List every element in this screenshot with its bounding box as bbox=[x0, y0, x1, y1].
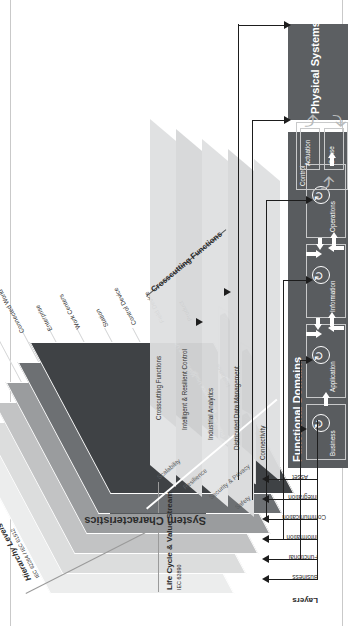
syschar-axis-line bbox=[110, 513, 206, 514]
flow-arrow-up-info-app bbox=[334, 326, 344, 330]
mapping-line-functional-v bbox=[268, 559, 318, 560]
mapping-line-asset-v bbox=[268, 479, 318, 480]
mapping-drop-operations bbox=[266, 200, 308, 201]
crosscutting-arrowhead-1 bbox=[196, 318, 203, 326]
flow-arrow-up-ops-info bbox=[334, 246, 344, 250]
physical-systems-title: Physical Systems bbox=[310, 21, 321, 114]
mapping-drop-information bbox=[283, 280, 308, 281]
application-domain-label: Application bbox=[330, 361, 336, 392]
crosscutting-band-3 bbox=[202, 139, 228, 461]
mapping-arrowhead-physical bbox=[284, 21, 291, 29]
actuation-to-physical-arrow: ⤷ bbox=[296, 113, 322, 128]
mapping-arrowhead-application bbox=[306, 356, 313, 364]
crosscutting-arrowhead-2 bbox=[224, 288, 231, 296]
system-characteristics-title: System Characteristics bbox=[84, 515, 206, 526]
mapping-drop-physical bbox=[238, 25, 288, 26]
flow-arrow-down-app-info bbox=[306, 332, 316, 336]
business-domain-box bbox=[306, 404, 346, 460]
mapping-run-information bbox=[283, 280, 284, 540]
mapping-arrow-business bbox=[262, 575, 269, 583]
actuation-label: Actuation bbox=[305, 140, 311, 166]
flow-arrow-down-info-ops bbox=[306, 252, 316, 256]
mapping-run-functional bbox=[300, 360, 301, 560]
mapping-run-business bbox=[317, 420, 318, 580]
rotated-figure: Hierarchy Levels IEC 62264 / IEC 61512 L… bbox=[0, 0, 352, 626]
flow-arrow-information-application bbox=[318, 238, 322, 244]
application-domain-cycle-icon bbox=[312, 346, 330, 364]
mapping-arrowhead-control bbox=[284, 116, 291, 124]
control-internal-arrow: ⤷ bbox=[312, 175, 338, 190]
mapping-arrowhead-business bbox=[300, 425, 307, 433]
information-domain-label: Information bbox=[330, 281, 336, 313]
crosscutting-label-industrial-analytics: Industrial Analytics bbox=[208, 388, 214, 440]
business-domain-label: Business bbox=[330, 430, 336, 456]
mapping-line-business-v bbox=[268, 579, 318, 580]
mapping-arrow-functional bbox=[262, 555, 269, 563]
information-domain-cycle-icon bbox=[312, 266, 330, 284]
mapping-arrowhead-operations bbox=[306, 196, 313, 204]
iira-block: Crosscutting Functions Intelligent & Res… bbox=[0, 0, 352, 626]
mapping-line-integration-v bbox=[268, 499, 318, 500]
mapping-drop-control bbox=[252, 120, 288, 121]
mapping-arrow-information bbox=[262, 535, 269, 543]
operations-domain-label: Operations bbox=[330, 201, 336, 232]
physical-to-sense-arrow: ⤶ bbox=[324, 113, 350, 128]
mapping-run-integration bbox=[252, 120, 253, 500]
crosscutting-label-crosscutting-functions: Crosscutting Functions bbox=[156, 356, 162, 420]
mapping-line-communication-v bbox=[268, 519, 318, 520]
figure-canvas: Hierarchy Levels IEC 62264 / IEC 61512 L… bbox=[0, 0, 352, 626]
flow-arrow-business-application bbox=[324, 398, 328, 406]
crosscutting-band-2 bbox=[176, 129, 202, 451]
crosscutting-label-intelligent-control: Intelligent & Resilient Control bbox=[182, 349, 188, 430]
mapping-line-information-v bbox=[268, 539, 318, 540]
business-domain-cycle-icon bbox=[312, 414, 330, 432]
mapping-arrowhead-information bbox=[306, 276, 313, 284]
mapping-run-communication bbox=[266, 200, 267, 520]
flow-arrow-application-business bbox=[316, 318, 320, 324]
flow-arrow-operations-control bbox=[330, 158, 334, 166]
mapping-run-asset bbox=[238, 24, 239, 480]
